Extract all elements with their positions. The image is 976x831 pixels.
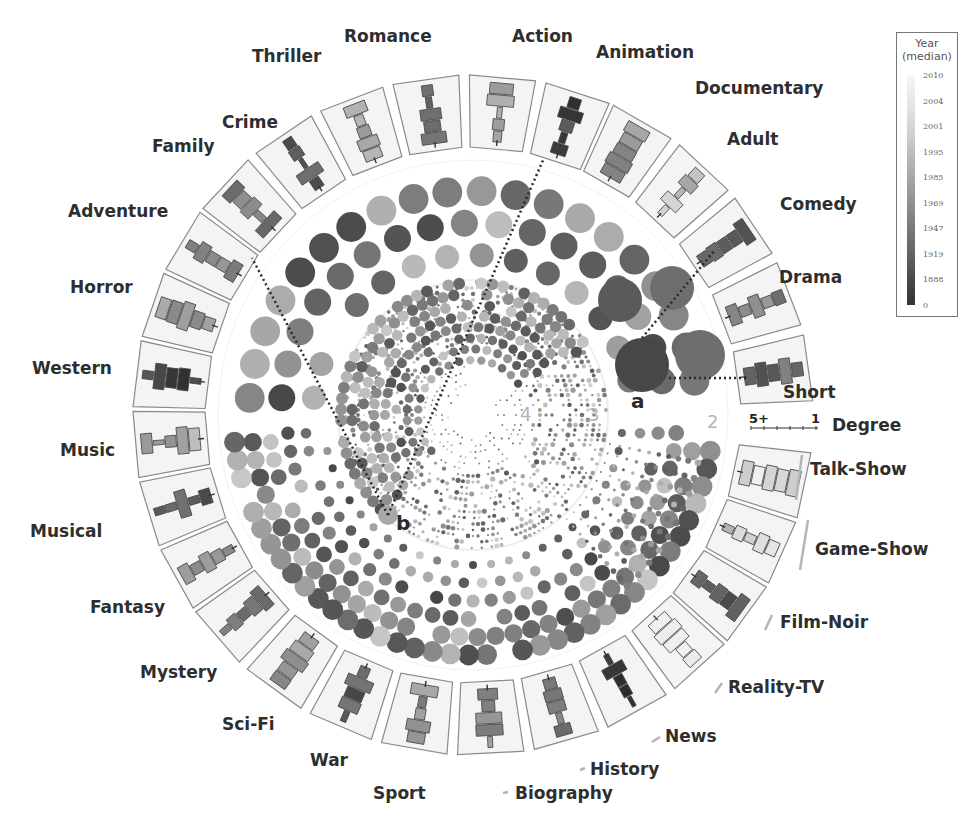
legend-tick: 2010 xyxy=(923,71,943,80)
legend-tick: 1985 xyxy=(923,173,943,182)
genre-label-music[interactable]: Music xyxy=(60,440,115,460)
genre-label-comedy[interactable]: Comedy xyxy=(780,194,857,214)
legend-tick: 1947 xyxy=(923,224,943,233)
genre-box-music[interactable] xyxy=(133,405,210,477)
year-legend: Year (median) 20102004200119951985196919… xyxy=(896,32,958,317)
legend-title-median: (median) xyxy=(897,50,957,63)
genre-label-thriller[interactable]: Thriller xyxy=(252,46,322,66)
genre-label-war[interactable]: War xyxy=(310,750,349,770)
genre-label-history[interactable]: History xyxy=(590,759,659,779)
genre-box-western[interactable] xyxy=(133,341,212,416)
legend-tick: 1969 xyxy=(923,199,943,208)
ring-label-3: 3 xyxy=(588,404,599,425)
genre-label-news[interactable]: News xyxy=(665,726,717,746)
genre-label-reality-tv[interactable]: Reality-TV xyxy=(728,677,825,697)
genre-label-animation[interactable]: Animation xyxy=(596,42,694,62)
genre-box-action[interactable] xyxy=(463,75,535,152)
degree-axis: 5+1Degree xyxy=(749,411,901,435)
legend-title-year: Year xyxy=(897,37,957,50)
legend-tick: 2004 xyxy=(923,97,943,106)
genre-label-mystery[interactable]: Mystery xyxy=(140,662,217,682)
genre-label-sport[interactable]: Sport xyxy=(373,783,426,803)
genre-label-drama[interactable]: Drama xyxy=(779,267,842,287)
genre-label-action[interactable]: Action xyxy=(512,26,573,46)
legend-tick: 0 xyxy=(923,301,928,310)
genre-label-fantasy[interactable]: Fantasy xyxy=(90,597,165,617)
genre-label-adventure[interactable]: Adventure xyxy=(68,201,168,221)
genre-label-musical[interactable]: Musical xyxy=(30,521,102,541)
genre-label-crime[interactable]: Crime xyxy=(222,112,278,132)
genre-label-western[interactable]: Western xyxy=(32,358,112,378)
genre-label-adult[interactable]: Adult xyxy=(727,129,778,149)
legend-title: Year (median) xyxy=(897,37,957,63)
genre-label-short[interactable]: Short xyxy=(783,382,836,402)
legend-tick: 1995 xyxy=(923,148,943,157)
legend-tick: 1919 xyxy=(923,250,943,259)
genre-label-talk-show[interactable]: Talk-Show xyxy=(810,459,907,479)
bubble-a xyxy=(615,338,669,392)
genre-label-game-show[interactable]: Game-Show xyxy=(815,539,929,559)
annotation-b: b xyxy=(396,511,410,535)
genre-box-biography[interactable] xyxy=(454,680,524,755)
genre-label-film-noir[interactable]: Film-Noir xyxy=(780,612,869,632)
ring-label-2: 2 xyxy=(707,411,718,432)
ring-label-4: 4 xyxy=(520,403,531,424)
radial-chart: ShortTalk-ShowGame-ShowFilm-NoirReality-… xyxy=(0,0,976,831)
genre-label-sci-fi[interactable]: Sci-Fi xyxy=(222,714,275,734)
legend-gradient-bar xyxy=(907,75,915,305)
legend-tick: 2001 xyxy=(923,122,943,131)
degree-axis-title: Degree xyxy=(832,415,901,435)
genre-label-romance[interactable]: Romance xyxy=(344,26,432,46)
genre-box-sport[interactable] xyxy=(382,672,460,754)
genre-label-horror[interactable]: Horror xyxy=(70,277,133,297)
annotation-a: a xyxy=(631,389,645,413)
genre-label-biography[interactable]: Biography xyxy=(515,783,613,803)
degree-axis-right-label: 1 xyxy=(811,411,820,426)
degree-axis-left-label: 5+ xyxy=(749,411,769,426)
genre-label-documentary[interactable]: Documentary xyxy=(695,78,823,98)
genre-label-family[interactable]: Family xyxy=(152,136,215,156)
genre-box-romance[interactable] xyxy=(393,75,469,155)
legend-tick: 1888 xyxy=(923,275,943,284)
